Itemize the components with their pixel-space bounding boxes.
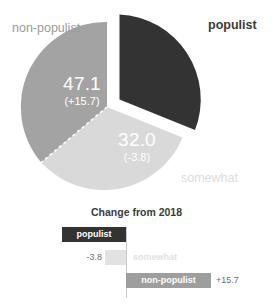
pie-value-non-populist: 47.1 (+15.7) — [49, 74, 115, 107]
pie-label-non-populist: non-populist — [12, 22, 80, 35]
bar-value-non-populist: +15.7 — [216, 276, 239, 285]
pie-value-somewhat: 32.0 (-3.8) — [104, 130, 170, 163]
pie-value-somewhat-number: 32.0 — [104, 130, 170, 149]
bar-chart-title: Change from 2018 — [0, 206, 273, 218]
pie-value-populist: 20.9 (-11.8) — [185, 47, 241, 80]
bar-label-non-populist: non-populist — [141, 276, 195, 285]
pie-label-populist: populist — [208, 19, 257, 32]
bar-value-somewhat: -3.8 — [50, 253, 102, 262]
pie-value-non-populist-delta: (+15.7) — [49, 96, 115, 107]
pie-label-somewhat: somewhat — [181, 172, 238, 185]
bar-row-populist: -11.8 populist — [0, 227, 273, 242]
bar-somewhat[interactable] — [105, 250, 126, 265]
bar-label-somewhat: somewhat — [133, 253, 177, 262]
pie-chart: non-populist populist somewhat 47.1 (+15… — [0, 0, 273, 200]
bar-row-somewhat: -3.8 somewhat — [0, 250, 273, 265]
chart-root: non-populist populist somewhat 47.1 (+15… — [0, 0, 273, 305]
bar-row-non-populist: non-populist +15.7 — [0, 273, 273, 288]
pie-value-populist-number: 20.9 — [185, 47, 241, 66]
pie-value-non-populist-number: 47.1 — [49, 74, 115, 93]
bar-non-populist[interactable]: non-populist — [126, 273, 211, 288]
bar-label-populist: populist — [77, 230, 112, 239]
change-bar-chart: Change from 2018 -11.8 populist -3.8 som… — [0, 200, 273, 305]
bar-populist[interactable]: populist — [62, 227, 126, 242]
pie-value-somewhat-delta: (-3.8) — [104, 152, 170, 163]
pie-value-populist-delta: (-11.8) — [185, 69, 241, 80]
